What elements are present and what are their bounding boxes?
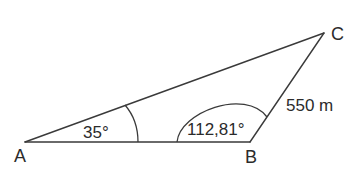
angle-label-a: 35° bbox=[83, 123, 109, 142]
vertex-label-c: C bbox=[331, 24, 344, 44]
angle-arc-a bbox=[125, 105, 138, 142]
angle-label-b: 112,81° bbox=[187, 120, 245, 139]
vertex-label-b: B bbox=[245, 147, 257, 167]
triangle-diagram: 35° 112,81° 550 m A B C bbox=[0, 0, 360, 180]
side-ac bbox=[25, 33, 324, 142]
side-bc bbox=[250, 33, 324, 142]
vertex-label-a: A bbox=[14, 146, 26, 166]
side-label-bc: 550 m bbox=[286, 96, 333, 115]
triangle-svg: 35° 112,81° 550 m A B C bbox=[0, 0, 360, 180]
